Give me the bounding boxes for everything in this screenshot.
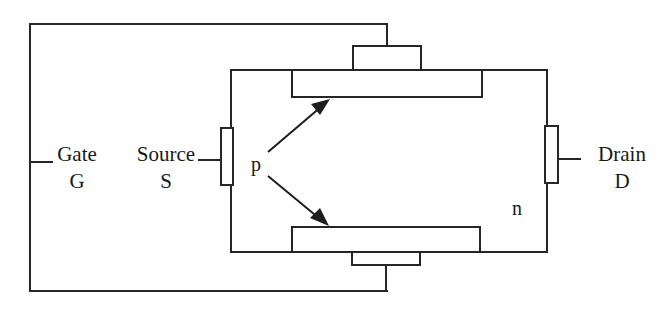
drain-terminal-pad xyxy=(545,126,558,183)
gate-label: Gate xyxy=(57,142,97,166)
gate-contact-tab-top xyxy=(353,46,421,70)
p-region-label: p xyxy=(251,153,261,176)
source-symbol-label: S xyxy=(160,169,172,193)
gate-contact-tab-bottom xyxy=(352,252,420,265)
source-label: Source xyxy=(137,142,195,166)
jfet-structure-diagram: Gate G Source S Drain D p n xyxy=(0,0,665,309)
p-region-top xyxy=(292,70,482,97)
drain-symbol-label: D xyxy=(614,169,629,193)
drain-label: Drain xyxy=(598,142,646,166)
p-region-bottom xyxy=(292,227,480,252)
gate-symbol-label: G xyxy=(69,169,84,193)
n-region-label: n xyxy=(512,197,522,219)
source-terminal-pad xyxy=(221,128,233,185)
jfet-diagram-canvas: Gate G Source S Drain D p n xyxy=(0,0,665,309)
